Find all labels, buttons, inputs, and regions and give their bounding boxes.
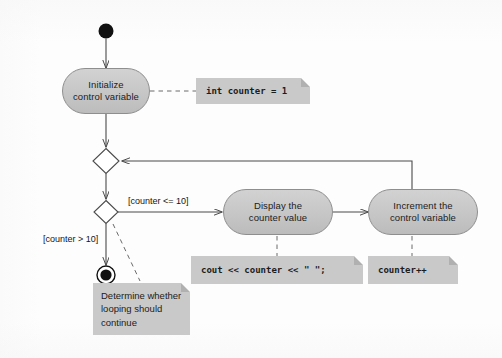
note-decision-line3: continue — [101, 316, 181, 329]
note-increment-code: counter++ — [368, 256, 458, 284]
action-display-line1: Display the — [249, 200, 307, 212]
note-display-code: cout << counter << " "; — [191, 256, 363, 284]
decision-node — [94, 201, 118, 224]
action-initialize-line1: Initialize — [73, 79, 139, 91]
action-initialize-line2: control variable — [73, 91, 139, 103]
guard-label-loop-continue: [counter <= 10] — [128, 196, 189, 206]
merge-node — [93, 149, 119, 174]
note-initialize-code: int counter = 1 — [196, 78, 310, 104]
edge-increment-loopback — [122, 161, 412, 189]
action-display-counter-value[interactable]: Display the counter value — [223, 189, 333, 235]
activity-diagram-canvas: Initialize control variable Display the … — [0, 0, 502, 358]
initial-node — [99, 24, 114, 39]
connector-layer — [0, 0, 502, 358]
note-initialize-code-text: int counter = 1 — [196, 85, 287, 98]
note-increment-code-text: counter++ — [368, 264, 427, 277]
note-decision-explanation-text: Determine whether looping should continu… — [93, 285, 189, 333]
action-increment-line1: Increment the — [390, 200, 456, 212]
action-initialize-control-variable[interactable]: Initialize control variable — [62, 68, 150, 114]
note-display-code-text: cout << counter << " "; — [191, 264, 326, 277]
guard-label-loop-exit: [counter > 10] — [43, 234, 98, 244]
final-node-inner-dot — [100, 269, 111, 280]
note-decision-explanation: Determine whether looping should continu… — [93, 283, 190, 335]
action-increment-control-variable[interactable]: Increment the control variable — [368, 189, 478, 235]
note-decision-line2: looping should — [101, 302, 181, 315]
action-increment-line2: control variable — [390, 212, 456, 224]
action-display-line2: counter value — [249, 212, 307, 224]
note-anchor-decision — [113, 224, 140, 281]
note-decision-line1: Determine whether — [101, 289, 181, 302]
